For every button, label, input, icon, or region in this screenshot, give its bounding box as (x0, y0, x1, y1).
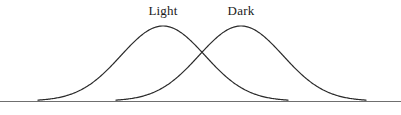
distribution-plot (0, 0, 401, 115)
dark-distribution-curve (116, 26, 366, 100)
light-curve-label: Light (148, 4, 177, 17)
dark-curve-label: Dark (228, 4, 255, 17)
light-distribution-curve (38, 26, 288, 100)
distribution-figure: Light Dark (0, 0, 401, 115)
